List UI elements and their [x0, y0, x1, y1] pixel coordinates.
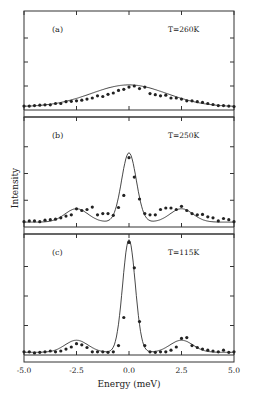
data-point [148, 92, 151, 95]
data-point [33, 351, 36, 354]
data-point [169, 206, 172, 209]
data-point [169, 96, 172, 99]
data-point [143, 344, 146, 347]
data-point [217, 350, 220, 353]
fit-curve [24, 153, 234, 222]
data-point [54, 350, 57, 353]
x-axis: -5.0-2.50.02.55.0 [17, 366, 240, 375]
data-point [154, 351, 157, 354]
data-point [64, 100, 67, 103]
data-point [38, 104, 41, 107]
chart-figure: (a)T=260K(b)T=250K(c)T=115K -5.0-2.50.02… [0, 0, 253, 398]
data-point [101, 212, 104, 215]
data-point [232, 350, 235, 353]
data-point [211, 216, 214, 219]
data-point [169, 349, 172, 352]
data-point [175, 96, 178, 99]
panel-b: (b)T=250K [22, 117, 235, 234]
data-point [143, 86, 146, 89]
data-point [106, 351, 109, 354]
data-point [96, 213, 99, 216]
data-point [112, 91, 115, 94]
data-point [28, 105, 31, 108]
data-point [217, 104, 220, 107]
data-point [38, 351, 41, 354]
data-point [54, 102, 57, 105]
data-point [206, 349, 209, 352]
data-point [59, 216, 62, 219]
data-point [232, 105, 235, 108]
data-point [222, 104, 225, 107]
data-point [49, 349, 52, 352]
data-point [201, 348, 204, 351]
data-point [80, 99, 83, 102]
data-point [180, 98, 183, 101]
data-point [175, 208, 178, 211]
x-tick-label: -2.5 [69, 366, 84, 375]
data-point [85, 346, 88, 349]
panel-label: (a) [52, 25, 63, 34]
data-point [227, 105, 230, 108]
data-point [127, 241, 130, 244]
data-point [201, 101, 204, 104]
data-point [85, 208, 88, 211]
data-point [75, 207, 78, 210]
temperature-label: T=115K [168, 248, 200, 257]
data-point [70, 345, 73, 348]
data-point [91, 350, 94, 353]
data-point [122, 194, 125, 197]
data-point [28, 219, 31, 222]
data-point [164, 350, 167, 353]
data-point [159, 350, 162, 353]
panel-label: (b) [52, 131, 63, 140]
data-point [196, 100, 199, 103]
x-tick-label: 0.0 [123, 366, 135, 375]
data-point [22, 105, 25, 108]
data-point [164, 206, 167, 209]
data-point [70, 213, 73, 216]
data-point [175, 345, 178, 348]
data-point [101, 95, 104, 98]
panel-c: (c)T=115K [22, 234, 235, 362]
panel-label: (c) [52, 248, 63, 257]
data-point [133, 176, 136, 179]
data-point [85, 98, 88, 101]
data-point [185, 336, 188, 339]
data-point [33, 219, 36, 222]
data-point [33, 104, 36, 107]
data-point [211, 103, 214, 106]
data-point [101, 350, 104, 353]
data-point [96, 350, 99, 353]
data-point [59, 102, 62, 105]
data-point [190, 344, 193, 347]
data-point [80, 209, 83, 212]
data-point [148, 213, 151, 216]
data-point [117, 206, 120, 209]
data-point [222, 217, 225, 220]
x-axis-label: Energy (meV) [97, 379, 160, 389]
data-point [190, 212, 193, 215]
data-point [232, 220, 235, 223]
data-point [59, 349, 62, 352]
data-point [196, 213, 199, 216]
data-point [190, 99, 193, 102]
data-point [222, 349, 225, 352]
temperature-label: T=250K [168, 131, 200, 140]
data-point [112, 350, 115, 353]
data-point [28, 350, 31, 353]
data-point [43, 350, 46, 353]
data-point [133, 84, 136, 87]
data-point [206, 215, 209, 218]
data-point [117, 89, 120, 92]
data-point [75, 342, 78, 345]
data-point [154, 213, 157, 216]
data-point [75, 99, 78, 102]
data-point [138, 320, 141, 323]
x-tick-label: -5.0 [17, 366, 32, 375]
data-point [22, 350, 25, 353]
data-point [80, 343, 83, 346]
data-point [159, 94, 162, 97]
x-tick-label: 5.0 [228, 366, 240, 375]
data-point [70, 100, 73, 103]
data-point [201, 213, 204, 216]
